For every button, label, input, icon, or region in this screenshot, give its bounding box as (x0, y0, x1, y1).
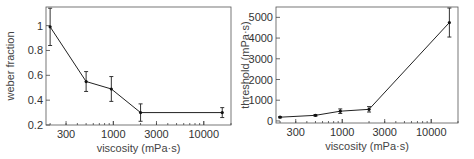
plot-frame (276, 7, 458, 123)
data-point (339, 110, 342, 113)
x-tick-label: 1000 (101, 128, 125, 140)
y-tick-label: 1000 (249, 94, 273, 106)
y-tick-label: 2000 (249, 74, 273, 86)
y-axis-label: threshold (mPa·s) (239, 21, 251, 108)
x-tick-label: 10000 (188, 128, 219, 140)
y-tick-label: 3000 (249, 53, 273, 65)
data-point (278, 116, 281, 119)
y-tick-label: 5000 (249, 11, 273, 23)
x-tick-label: 3000 (372, 126, 396, 138)
data-point (85, 80, 88, 83)
y-tick-label: 0.4 (28, 94, 43, 106)
data-point (139, 111, 142, 114)
x-axis-label: viscosity (mPa·s) (325, 140, 409, 152)
y-tick-label: 1 (37, 20, 43, 32)
x-tick-label: 3000 (144, 128, 168, 140)
y-tick-label: 0.2 (28, 119, 43, 131)
data-point (314, 114, 317, 117)
data-point (448, 21, 451, 24)
data-line (50, 27, 222, 113)
y-axis-label: weber fraction (4, 31, 16, 101)
y-tick-label: 0 (267, 115, 273, 127)
y-tick-label: 4000 (249, 32, 273, 44)
y-tick-label: 0.6 (28, 69, 43, 81)
chart-canvas: 30010003000100000.20.40.60.81viscosity (… (0, 0, 474, 159)
x-tick-label: 10000 (416, 126, 447, 138)
data-line (280, 23, 449, 118)
data-point (367, 108, 370, 111)
x-tick-label: 1000 (330, 126, 354, 138)
data-point (221, 111, 224, 114)
x-tick-label: 300 (287, 126, 305, 138)
chart-panel-1: 30010003000100000.20.40.60.81viscosity (… (4, 7, 231, 154)
x-axis-label: viscosity (mPa·s) (97, 142, 181, 154)
data-point (49, 25, 52, 28)
y-tick-label: 0.8 (28, 44, 43, 56)
plot-frame (46, 7, 231, 125)
data-point (110, 87, 113, 90)
x-tick-label: 300 (57, 128, 75, 140)
chart-panel-2: 3001000300010000010002000300040005000vis… (239, 7, 458, 152)
